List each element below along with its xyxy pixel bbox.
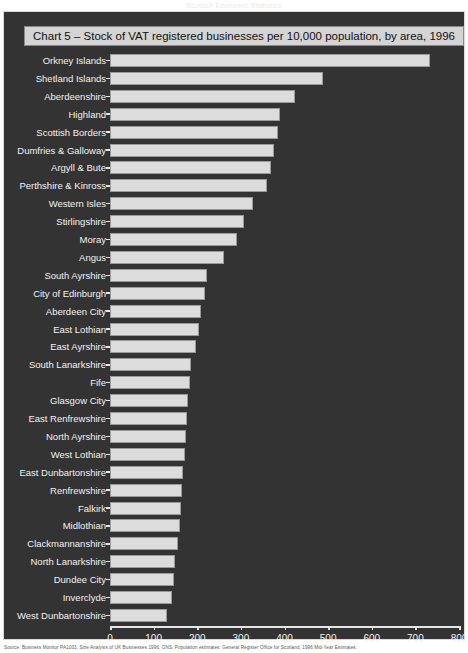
bar <box>110 448 185 461</box>
top-caption: Scottish Economic Statistics <box>0 0 468 11</box>
category-label: Perthshire & Kinross <box>5 179 109 192</box>
category-label: Aberdeen City <box>5 305 109 318</box>
bar <box>110 90 295 103</box>
bar <box>110 323 199 336</box>
x-axis-tick <box>328 626 330 630</box>
x-axis-tick <box>197 626 199 630</box>
category-label: Western Isles <box>5 197 109 210</box>
category-label: Falkirk <box>5 502 109 515</box>
category-label: North Ayrshire <box>5 430 109 443</box>
bar <box>110 412 187 425</box>
bar <box>110 197 253 210</box>
category-label: Scottish Borders <box>5 126 109 139</box>
bar <box>110 394 188 407</box>
category-label: East Dunbartonshire <box>5 466 109 479</box>
bar <box>110 340 196 353</box>
category-label: Renfrewshire <box>5 484 109 497</box>
category-label: Clackmannanshire <box>5 537 109 550</box>
bar <box>110 305 201 318</box>
category-label: East Ayrshire <box>5 340 109 353</box>
category-label: South Lanarkshire <box>5 358 109 371</box>
category-label: City of Edinburgh <box>5 287 109 300</box>
bar <box>110 269 207 282</box>
bar <box>110 161 271 174</box>
bar <box>110 233 237 246</box>
category-label: Midlothian <box>5 519 109 532</box>
category-label: Glasgow City <box>5 394 109 407</box>
category-label: North Lanarkshire <box>5 555 109 568</box>
x-axis-tick <box>372 626 374 630</box>
bar <box>110 430 186 443</box>
bar <box>110 484 182 497</box>
bar <box>110 72 323 85</box>
bar <box>110 287 205 300</box>
category-label: Argyll & Bute <box>5 161 109 174</box>
category-label: South Ayrshire <box>5 269 109 282</box>
chart-frame: Chart 5 – Stock of VAT registered busine… <box>3 11 465 640</box>
category-label: Highland <box>5 108 109 121</box>
x-axis-tick <box>459 626 461 630</box>
bar <box>110 376 190 389</box>
bar <box>110 591 172 604</box>
bar <box>110 502 181 515</box>
x-axis-tick <box>241 626 243 630</box>
category-label: Stirlingshire <box>5 215 109 228</box>
bar <box>110 573 174 586</box>
category-label: Dumfries & Galloway <box>5 144 109 157</box>
category-label: Aberdeenshire <box>5 90 109 103</box>
bar <box>110 215 244 228</box>
chart-figure: Scottish Economic Statistics Chart 5 – S… <box>0 0 468 653</box>
category-label: Angus <box>5 251 109 264</box>
plot-area <box>110 54 459 626</box>
chart-footnote: Source: Business Monitor PA1003, Size An… <box>4 643 464 652</box>
bar <box>110 179 267 192</box>
category-label: West Lothian <box>5 448 109 461</box>
x-axis-tick <box>415 626 417 630</box>
category-label: Inverclyde <box>5 591 109 604</box>
bar <box>110 144 274 157</box>
x-axis-tick <box>154 626 156 630</box>
category-label: East Lothian <box>5 323 109 336</box>
bar <box>110 54 430 67</box>
category-label: East Renfrewshire <box>5 412 109 425</box>
category-label: Orkney Islands <box>5 54 109 67</box>
bar <box>110 108 280 121</box>
bar <box>110 537 178 550</box>
chart-title: Chart 5 – Stock of VAT registered busine… <box>24 26 464 46</box>
bar <box>110 555 175 568</box>
x-axis-tick <box>110 626 112 630</box>
category-label: West Dunbartonshire <box>5 609 109 622</box>
bar <box>110 519 180 532</box>
category-label: Moray <box>5 233 109 246</box>
category-label: Dundee City <box>5 573 109 586</box>
x-axis-tick <box>285 626 287 630</box>
bar <box>110 466 183 479</box>
bar <box>110 126 278 139</box>
bar <box>110 609 167 622</box>
category-label: Fife <box>5 376 109 389</box>
bar <box>110 251 224 264</box>
category-label: Shetland Islands <box>5 72 109 85</box>
bar <box>110 358 191 371</box>
